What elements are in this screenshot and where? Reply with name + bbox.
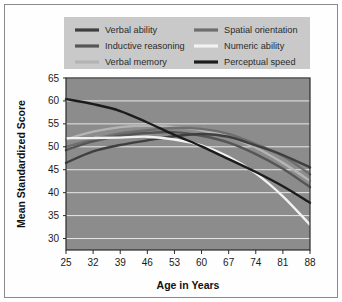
legend-label[interactable]: Spatial orientation: [224, 25, 298, 35]
legend-label[interactable]: Numeric ability: [224, 41, 285, 51]
x-tick-label: 60: [196, 257, 208, 268]
legend-label[interactable]: Verbal ability: [105, 25, 157, 35]
legend-label[interactable]: Perceptual speed: [224, 57, 296, 67]
y-tick-label: 60: [48, 95, 60, 106]
y-tick-label: 55: [48, 118, 60, 129]
x-tick-label: 74: [250, 257, 262, 268]
x-tick-label: 39: [115, 257, 127, 268]
legend-label[interactable]: Inductive reasoning: [105, 41, 185, 51]
y-tick-label: 30: [48, 233, 60, 244]
y-tick-label: 35: [48, 210, 60, 221]
x-axis-title: Age in Years: [157, 279, 220, 291]
x-tick-label: 25: [60, 257, 72, 268]
y-tick-label: 45: [48, 164, 60, 175]
y-tick-label: 40: [48, 187, 60, 198]
x-tick-label: 81: [277, 257, 289, 268]
x-tick-label: 53: [169, 257, 181, 268]
x-tick-label: 67: [223, 257, 235, 268]
y-axis: 3035404550556065: [48, 73, 66, 245]
figure-container: Verbal abilityInductive reasoningVerbal …: [0, 0, 342, 302]
chart-legend: Verbal abilityInductive reasoningVerbal …: [64, 17, 310, 69]
x-axis: 25323946536067748188: [60, 250, 316, 268]
y-tick-label: 65: [48, 73, 60, 84]
x-tick-label: 32: [88, 257, 100, 268]
y-tick-label: 50: [48, 141, 60, 152]
plot-area: [66, 78, 310, 250]
legend-label[interactable]: Verbal memory: [105, 57, 167, 67]
y-axis-title: Mean Standardized Score: [15, 100, 27, 228]
line-chart: Verbal abilityInductive reasoningVerbal …: [0, 0, 342, 302]
x-tick-label: 46: [142, 257, 154, 268]
x-tick-label: 88: [304, 257, 316, 268]
